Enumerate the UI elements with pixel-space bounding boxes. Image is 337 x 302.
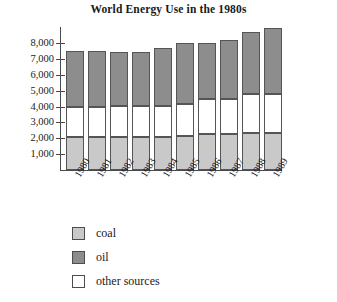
y-tick-mark [56, 75, 65, 76]
y-axis-line [60, 27, 61, 171]
legend-swatch-icon [72, 275, 85, 288]
legend-label: oil [96, 250, 109, 265]
legend-swatch-icon [72, 227, 85, 240]
legend-label: coal [96, 226, 116, 241]
bar-segment-other-sources [220, 99, 238, 135]
y-tick-label: 1,000 [0, 149, 54, 159]
bar-segment-other-sources [66, 107, 84, 137]
y-tick-label: 7,000 [0, 54, 54, 64]
y-tick-mark [56, 107, 65, 108]
y-tick-label: 5,000 [0, 86, 54, 96]
legend-label: other sources [96, 274, 160, 289]
bar-segment-oil [220, 40, 238, 99]
chart-legend: coaloilother sources [72, 221, 160, 293]
y-tick-mark [56, 154, 65, 155]
bar-segment-oil [132, 52, 150, 107]
y-tick-label: 6,000 [0, 70, 54, 80]
stacked-bar [220, 40, 238, 170]
legend-item: other sources [72, 269, 160, 293]
y-tick-label: 4,000 [0, 102, 54, 112]
bar-segment-other-sources [242, 94, 260, 134]
bar-segment-oil [242, 32, 260, 94]
bar-segment-other-sources [132, 106, 150, 136]
stacked-bar [132, 52, 150, 170]
stacked-bar [242, 32, 260, 170]
bar-segment-other-sources [198, 99, 216, 134]
plot-area: 1,0002,0003,0004,0005,0006,0007,0008,000… [0, 0, 337, 302]
y-tick-label: 8,000 [0, 38, 54, 48]
stacked-bar [176, 43, 194, 170]
bar-segment-other-sources [154, 106, 172, 137]
bar-segment-oil [264, 28, 282, 94]
bar-segment-other-sources [264, 94, 282, 134]
bar-segment-oil [154, 48, 172, 106]
y-tick-mark [56, 59, 65, 60]
stacked-bar [110, 52, 128, 170]
legend-item: coal [72, 221, 160, 245]
bar-segment-oil [88, 51, 106, 107]
stacked-bar [198, 43, 216, 170]
bar-segment-other-sources [88, 107, 106, 137]
stacked-bar [154, 48, 172, 170]
bar-segment-oil [66, 51, 84, 107]
stacked-bar [264, 28, 282, 170]
y-tick-label: 3,000 [0, 117, 54, 127]
bar-segment-oil [110, 52, 128, 107]
legend-swatch-icon [72, 251, 85, 264]
bar-segment-oil [176, 43, 194, 104]
bar-segment-other-sources [176, 104, 194, 136]
stacked-bar [88, 51, 106, 170]
y-tick-mark [56, 138, 65, 139]
bar-segment-other-sources [110, 106, 128, 136]
chart-figure: World Energy Use in the 1980s 1,0002,000… [0, 0, 337, 302]
y-tick-mark [56, 43, 65, 44]
stacked-bar [66, 51, 84, 170]
y-tick-mark [56, 122, 65, 123]
bar-segment-oil [198, 43, 216, 99]
y-tick-label: 2,000 [0, 133, 54, 143]
y-tick-mark [56, 91, 65, 92]
legend-item: oil [72, 245, 160, 269]
